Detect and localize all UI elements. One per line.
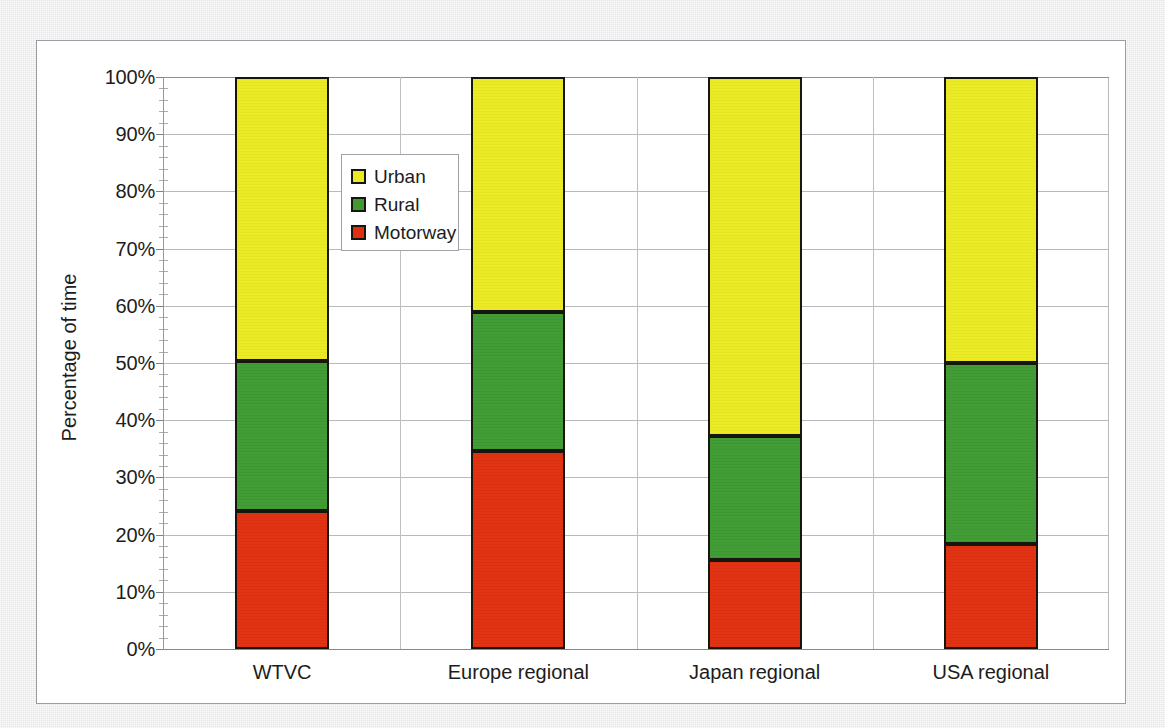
y-axis-tick-label: 60% xyxy=(77,296,155,316)
chart-page: 0%10%20%30%40%50%60%70%80%90%100% Percen… xyxy=(0,0,1165,728)
bar-segment-urban[interactable] xyxy=(708,77,802,436)
legend-item-motorway[interactable]: Motorway xyxy=(351,218,458,246)
bar-segment-motorway[interactable] xyxy=(235,511,329,649)
y-axis-tick-label: 0% xyxy=(77,639,155,659)
y-axis-tick-label: 80% xyxy=(77,181,155,201)
y-axis-tick-label: 40% xyxy=(77,410,155,430)
legend-swatch-icon xyxy=(351,169,366,184)
x-axis-tick-label: Europe regional xyxy=(388,661,648,684)
bar-usa-regional[interactable] xyxy=(944,77,1038,649)
bar-segment-urban[interactable] xyxy=(235,77,329,361)
y-axis-tick-label: 50% xyxy=(77,353,155,373)
bar-segment-rural[interactable] xyxy=(235,361,329,510)
y-axis-tick-label: 10% xyxy=(77,582,155,602)
plot-area xyxy=(164,77,1109,649)
y-axis-tick-label: 90% xyxy=(77,124,155,144)
bar-japan-regional[interactable] xyxy=(708,77,802,649)
bar-segment-motorway[interactable] xyxy=(471,451,565,649)
legend-swatch-icon xyxy=(351,225,366,240)
legend-item-label: Urban xyxy=(374,167,426,186)
bar-segment-rural[interactable] xyxy=(944,363,1038,544)
bar-segment-motorway[interactable] xyxy=(944,544,1038,649)
y-axis-title: Percentage of time xyxy=(58,238,81,478)
legend-item-label: Motorway xyxy=(374,223,456,242)
bar-segment-rural[interactable] xyxy=(471,312,565,452)
legend-swatch-icon xyxy=(351,197,366,212)
y-axis-tick-label: 70% xyxy=(77,239,155,259)
y-axis-tick-label: 100% xyxy=(77,67,155,87)
gridline-horizontal xyxy=(164,649,1109,650)
legend-item-label: Rural xyxy=(374,195,419,214)
bar-segment-urban[interactable] xyxy=(944,77,1038,363)
bar-europe-regional[interactable] xyxy=(471,77,565,649)
legend-item-rural[interactable]: Rural xyxy=(351,190,458,218)
chart-legend: UrbanRuralMotorway xyxy=(341,154,459,251)
gridline-vertical xyxy=(637,77,638,649)
y-axis-tick-label: 30% xyxy=(77,467,155,487)
y-axis-tick-label: 20% xyxy=(77,525,155,545)
x-axis-tick-label: WTVC xyxy=(152,661,412,684)
bar-wtvc[interactable] xyxy=(235,77,329,649)
bar-segment-motorway[interactable] xyxy=(708,560,802,649)
y-axis: 0%10%20%30%40%50%60%70%80%90%100% xyxy=(37,41,155,703)
legend-item-urban[interactable]: Urban xyxy=(351,162,458,190)
x-axis-tick-label: Japan regional xyxy=(625,661,885,684)
bar-segment-urban[interactable] xyxy=(471,77,565,312)
x-axis-tick-label: USA regional xyxy=(861,661,1121,684)
gridline-vertical xyxy=(873,77,874,649)
chart-frame: 0%10%20%30%40%50%60%70%80%90%100% Percen… xyxy=(36,40,1126,704)
bar-segment-rural[interactable] xyxy=(708,436,802,560)
